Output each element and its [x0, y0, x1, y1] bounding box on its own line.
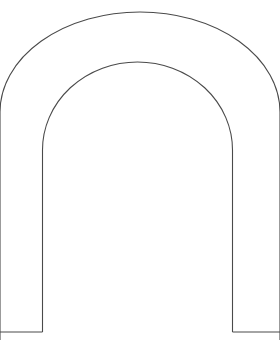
drawing-canvas — [0, 0, 280, 340]
arch-outline-figure — [0, 0, 280, 340]
